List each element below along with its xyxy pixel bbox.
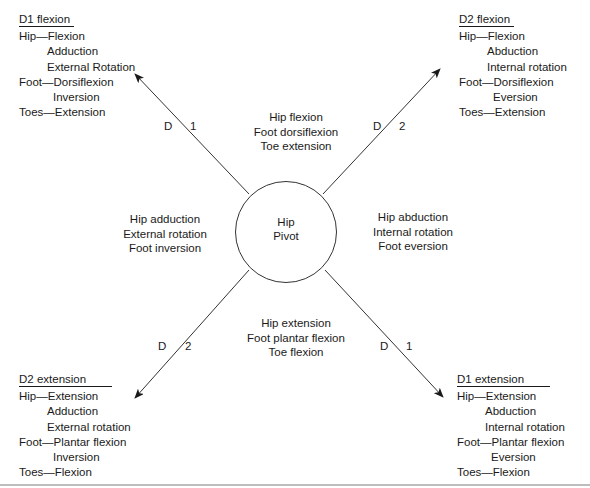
diagonal-label-number: 2 (399, 120, 405, 132)
foot-sub-line: Eversion (457, 450, 565, 465)
quadrant-line: Hip adduction (110, 212, 220, 227)
hip-line: Hip—Extension (457, 389, 565, 404)
diagonal-label-d: D (373, 120, 381, 132)
hip-sub-line: External Rotation (19, 60, 135, 75)
quadrant-line: Toe flexion (226, 345, 366, 360)
d1-flexion-block: D1 flexion Hip—Flexion Adduction Externa… (19, 12, 135, 121)
quadrant-left-text: Hip adduction External rotation Foot inv… (110, 212, 220, 256)
foot-line: Foot—Dorsiflexion (19, 75, 135, 90)
foot-sub-line: Inversion (19, 90, 135, 105)
hip-sub-line: Abduction (457, 404, 565, 419)
hip-sub-line: Abduction (459, 44, 567, 59)
foot-line: Foot—Plantar flexion (19, 435, 131, 450)
quadrant-line: Hip abduction (358, 210, 468, 225)
foot-sub-line: Inversion (19, 450, 131, 465)
quadrant-line: Hip flexion (226, 110, 366, 125)
d1-extension-block: D1 extension Hip—Extension Abduction Int… (457, 372, 565, 481)
foot-line: Foot—Dorsiflexion (459, 75, 567, 90)
bottom-divider (0, 484, 590, 486)
hip-line: Hip—Flexion (459, 29, 567, 44)
quadrant-bottom-text: Hip extension Foot plantar flexion Toe f… (226, 316, 366, 360)
hip-sub-line: Internal rotation (459, 60, 567, 75)
diagonal-label-number: 1 (190, 120, 196, 132)
toes-line: Toes—Flexion (457, 465, 565, 480)
diagonal-label-number: 1 (406, 340, 412, 352)
foot-sub-line: Eversion (459, 90, 567, 105)
hip-sub-line: Adduction (19, 404, 131, 419)
hip-pivot-circle: Hip Pivot (235, 181, 337, 283)
diagonal-label-d: D (164, 120, 172, 132)
d1-flexion-title: D1 flexion (19, 13, 74, 27)
quadrant-line: Toe extension (226, 139, 366, 154)
foot-line: Foot—Plantar flexion (457, 435, 565, 450)
hip-sub-line: Internal rotation (457, 420, 565, 435)
quadrant-top-text: Hip flexion Foot dorsiflexion Toe extens… (226, 110, 366, 154)
quadrant-line: External rotation (110, 227, 220, 242)
pnf-diagonal-diagram: D1 flexion Hip—Flexion Adduction Externa… (0, 0, 590, 488)
hip-sub-line: External rotation (19, 420, 131, 435)
diagonal-label-d: D (158, 340, 166, 352)
d2-extension-title: D2 extension (19, 373, 112, 387)
quadrant-line: Foot dorsiflexion (226, 125, 366, 140)
quadrant-line: Foot plantar flexion (226, 331, 366, 346)
toes-line: Toes—Extension (459, 105, 567, 120)
hip-pivot-label: Hip Pivot (236, 215, 336, 243)
quadrant-line: Foot inversion (110, 241, 220, 256)
quadrant-line: Foot eversion (358, 239, 468, 254)
hub-line: Hip (236, 215, 336, 229)
d1-extension-title: D1 extension (457, 373, 550, 387)
d2-flexion-title: D2 flexion (459, 13, 514, 27)
d2-extension-block: D2 extension Hip—Extension Adduction Ext… (19, 372, 131, 481)
hip-sub-line: Adduction (19, 44, 135, 59)
diagonal-label-number: 2 (185, 340, 191, 352)
d2-flexion-block: D2 flexion Hip—Flexion Abduction Interna… (459, 12, 567, 121)
toes-line: Toes—Flexion (19, 465, 131, 480)
quadrant-right-text: Hip abduction Internal rotation Foot eve… (358, 210, 468, 254)
hip-line: Hip—Flexion (19, 29, 135, 44)
quadrant-line: Hip extension (226, 316, 366, 331)
hip-line: Hip—Extension (19, 389, 131, 404)
toes-line: Toes—Extension (19, 105, 135, 120)
hub-line: Pivot (236, 229, 336, 243)
quadrant-line: Internal rotation (358, 225, 468, 240)
diagonal-label-d: D (380, 340, 388, 352)
